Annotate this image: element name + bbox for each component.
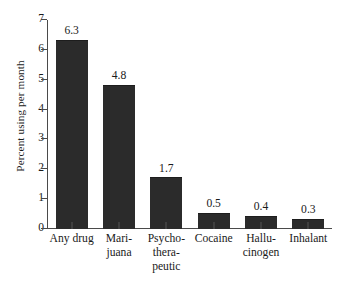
x-axis-category-label: Mari- juana: [95, 232, 142, 260]
x-axis-tick-labels: Any drugMari- juanaPsycho- thera- peutic…: [48, 232, 332, 292]
y-axis-tick-mark: [41, 228, 47, 229]
y-axis-tick-mark: [41, 19, 47, 20]
y-axis-tick-mark: [41, 49, 47, 50]
y-axis-tick-mark: [41, 198, 47, 199]
x-axis-tick-mark: [308, 222, 309, 229]
x-axis-tick-mark: [261, 222, 262, 229]
plot-area: 6.34.81.70.50.40.3: [48, 20, 332, 229]
x-axis-category-label: Psycho- thera- peutic: [143, 232, 190, 275]
x-axis-category-label: Cocaine: [190, 232, 237, 246]
y-axis-tick-mark: [41, 138, 47, 139]
x-axis-tick-mark: [119, 222, 120, 229]
bar-chart-figure: Percent using per month 01234567 6.34.81…: [0, 0, 341, 292]
bar-value-label: 0.5: [206, 198, 221, 210]
y-axis-tick-mark: [41, 109, 47, 110]
bar-group[interactable]: 1.7: [150, 20, 182, 229]
y-axis-tick-labels: 01234567: [30, 0, 44, 292]
bar[interactable]: [103, 85, 135, 229]
bar-value-label: 0.3: [301, 204, 316, 216]
y-axis-tick-mark: [41, 168, 47, 169]
x-axis-category-label: Any drug: [48, 232, 95, 246]
bar-group[interactable]: 0.4: [245, 20, 277, 229]
x-axis-category-label: Hallu- cinogen: [237, 232, 284, 260]
bar-group[interactable]: 0.5: [198, 20, 230, 229]
bar-group[interactable]: 4.8: [103, 20, 135, 229]
x-axis-tick-mark: [166, 222, 167, 229]
bar-value-label: 1.7: [159, 163, 174, 175]
bar-group[interactable]: 0.3: [292, 20, 324, 229]
bar-value-label: 4.8: [112, 70, 127, 82]
bar-value-label: 0.4: [254, 201, 269, 213]
y-axis-title-text: Percent using per month: [14, 60, 26, 171]
y-axis-tick-mark: [41, 79, 47, 80]
x-axis-tick-mark: [71, 222, 72, 229]
bar[interactable]: [56, 40, 88, 229]
x-axis-category-label: Inhalant: [285, 232, 332, 246]
x-axis-tick-mark: [213, 222, 214, 229]
bar-group[interactable]: 6.3: [56, 20, 88, 229]
y-axis-title: Percent using per month: [9, 0, 31, 232]
bar-value-label: 6.3: [64, 25, 79, 37]
